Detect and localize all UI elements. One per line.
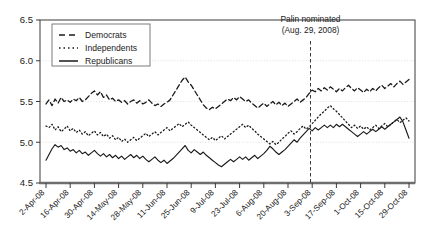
gridlines <box>40 61 415 143</box>
chart-container: 4.55.05.56.06.52-Apr-0816-Apr-0830-Apr-0… <box>0 0 428 245</box>
annotation-label-line2: (Aug. 29, 2008) <box>282 25 340 35</box>
y-tick-label: 4.5 <box>20 177 33 188</box>
legend-label-democrats: Democrats <box>85 30 127 40</box>
series-line-independents <box>46 106 409 145</box>
x-axis: 2-Apr-0816-Apr-0830-Apr-0814-May-0828-Ma… <box>18 183 410 222</box>
y-axis: 4.55.05.56.06.5 <box>20 14 40 188</box>
series-line-democrats <box>46 77 409 110</box>
y-tick-label: 5.0 <box>20 137 33 148</box>
legend-label-republicans: Republicans <box>85 56 132 66</box>
y-tick-label: 6.0 <box>20 55 33 66</box>
annotation-label-line1: Palin nominated <box>280 14 340 24</box>
series-group <box>46 77 409 167</box>
legend-label-independents: Independents <box>85 43 137 53</box>
series-line-republicans <box>46 117 409 167</box>
legend: DemocratsIndependentsRepublicans <box>52 24 150 66</box>
annotation-group: Palin nominated(Aug. 29, 2008) <box>280 14 340 183</box>
line-chart: 4.55.05.56.06.52-Apr-0816-Apr-0830-Apr-0… <box>0 0 428 245</box>
y-tick-label: 5.5 <box>20 96 33 107</box>
y-tick-label: 6.5 <box>20 14 33 25</box>
